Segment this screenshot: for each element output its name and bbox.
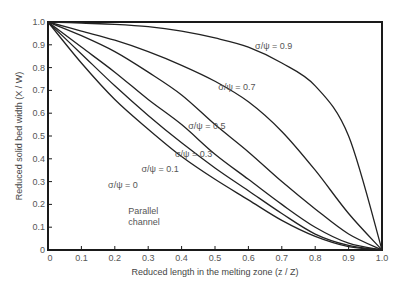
y-tick-label: 1.0 — [32, 17, 45, 27]
x-tick-label: 0.4 — [175, 253, 188, 263]
x-tick-label: 0.7 — [276, 253, 289, 263]
plot-border — [48, 22, 382, 250]
y-tick-label: 0.1 — [32, 222, 45, 232]
curve-line — [48, 22, 382, 250]
curve-labels: σ/ψ = 0.9σ/ψ = 0.7σ/ψ = 0.5σ/ψ = 0.3σ/ψ … — [108, 41, 292, 227]
x-axis-title: Reduced length in the melting zone (z / … — [131, 267, 298, 277]
x-tick-label: 0.6 — [242, 253, 255, 263]
x-tick-label: 0.3 — [142, 253, 155, 263]
x-tick-label: 0 — [47, 253, 52, 263]
curve-line — [48, 22, 382, 250]
plot-frame — [48, 22, 382, 250]
axis-ticks: 00.10.20.30.40.50.60.70.80.91.000.10.20.… — [32, 17, 388, 263]
y-tick-label: 0 — [40, 245, 45, 255]
curve-line — [48, 22, 382, 250]
curve-annotation: σ/ψ = 0.1 — [142, 164, 179, 174]
curve-annotation: σ/ψ = 0.3 — [175, 149, 212, 159]
curve-line — [48, 22, 382, 250]
x-tick-label: 0.9 — [342, 253, 355, 263]
curve-annotation: σ/ψ = 0 — [108, 180, 138, 190]
y-tick-label: 0.3 — [32, 177, 45, 187]
x-tick-label: 1.0 — [376, 253, 389, 263]
curve-annotation: σ/ψ = 0.9 — [255, 41, 292, 51]
curve-annotation: σ/ψ = 0.5 — [188, 121, 225, 131]
data-curves — [48, 22, 382, 250]
melting-profile-chart: 00.10.20.30.40.50.60.70.80.91.000.10.20.… — [0, 0, 403, 291]
y-tick-label: 0.9 — [32, 40, 45, 50]
x-tick-label: 0.1 — [75, 253, 88, 263]
y-axis-title: Reduced solid bed width (X / W) — [14, 72, 24, 201]
curve-line — [48, 22, 382, 250]
curve-annotation: Parallel — [128, 206, 158, 216]
y-tick-label: 0.2 — [32, 199, 45, 209]
x-tick-label: 0.5 — [209, 253, 222, 263]
curve-annotation: channel — [128, 217, 160, 227]
y-tick-label: 0.5 — [32, 131, 45, 141]
curve-annotation: σ/ψ = 0.7 — [218, 82, 255, 92]
y-tick-label: 0.7 — [32, 85, 45, 95]
y-tick-label: 0.8 — [32, 63, 45, 73]
curve-line — [48, 22, 382, 250]
x-tick-label: 0.8 — [309, 253, 322, 263]
y-tick-label: 0.6 — [32, 108, 45, 118]
x-tick-label: 0.2 — [109, 253, 122, 263]
y-tick-label: 0.4 — [32, 154, 45, 164]
